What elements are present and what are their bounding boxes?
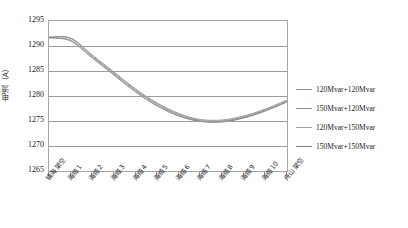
legend-line-swatch bbox=[296, 108, 312, 109]
legend-line-swatch bbox=[296, 146, 312, 147]
y-axis-tick-label: 1280 bbox=[28, 91, 44, 99]
legend-label: 150Mvar+150Mvar bbox=[316, 143, 375, 151]
chart-figure: 电流（A） 1295129012851280127512701265 镇海架空海… bbox=[0, 0, 408, 228]
series-line bbox=[49, 36, 287, 120]
y-axis-tick-label: 1295 bbox=[28, 16, 44, 24]
legend-line-swatch bbox=[296, 127, 312, 128]
gridline bbox=[49, 46, 287, 47]
legend-item[interactable]: 120Mvar+150Mvar bbox=[296, 118, 408, 137]
x-axis-tick-labels: 镇海架空海缆1海缆2海缆3海缆4海缆5海缆6海缆7海缆8海缆9海缆10舟山架空 bbox=[0, 172, 300, 222]
gridline bbox=[49, 96, 287, 97]
chart-legend: 120Mvar+120Mvar150Mvar+120Mvar120Mvar+15… bbox=[296, 80, 408, 156]
legend-line-swatch bbox=[296, 89, 312, 90]
legend-label: 150Mvar+120Mvar bbox=[316, 105, 375, 113]
y-axis-tick-label: 1290 bbox=[28, 41, 44, 49]
gridline bbox=[49, 71, 287, 72]
legend-label: 120Mvar+150Mvar bbox=[316, 124, 375, 132]
gridline bbox=[49, 146, 287, 147]
plot-area bbox=[48, 20, 288, 172]
legend-label: 120Mvar+120Mvar bbox=[316, 86, 375, 94]
legend-item[interactable]: 150Mvar+120Mvar bbox=[296, 99, 408, 118]
legend-item[interactable]: 150Mvar+150Mvar bbox=[296, 137, 408, 156]
y-axis-tick-label: 1270 bbox=[28, 141, 44, 149]
gridline bbox=[49, 121, 287, 122]
y-axis-tick-label: 1285 bbox=[28, 66, 44, 74]
legend-item[interactable]: 120Mvar+120Mvar bbox=[296, 80, 408, 99]
y-axis-tick-label: 1275 bbox=[28, 116, 44, 124]
